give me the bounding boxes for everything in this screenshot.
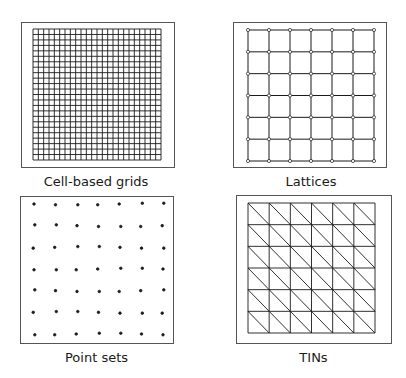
tin-panel [237,196,392,344]
label-tins: TINs [236,350,391,365]
point-set-panel [21,197,174,344]
cell-grid-panel [22,23,175,168]
lattice-panel [234,23,387,168]
label-lattices: Lattices [236,174,386,189]
label-cell-based-grids: Cell-based grids [21,174,171,189]
label-point-sets: Point sets [20,350,173,365]
diagram-canvas [0,0,406,378]
